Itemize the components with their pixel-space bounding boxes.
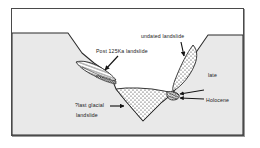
late-holocene-deposit bbox=[167, 92, 179, 100]
figure-root: Post 125Ka landslide undated landslide l… bbox=[0, 0, 260, 148]
figure-frame: Post 125Ka landslide undated landslide l… bbox=[11, 8, 244, 136]
label-last-glacial: ?last glacial bbox=[75, 103, 104, 108]
label-post-125ka-landslide: Post 125Ka landslide bbox=[96, 49, 148, 54]
label-late: late bbox=[208, 73, 217, 78]
label-undated-landslide: undated landslide bbox=[141, 34, 184, 39]
label-holocene: Holocene bbox=[206, 98, 229, 103]
label-landslide: landslide bbox=[76, 113, 98, 118]
